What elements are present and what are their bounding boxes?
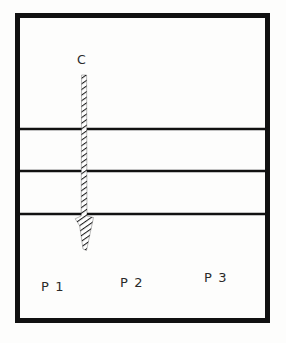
- ply-label-p2: P 2: [120, 276, 144, 289]
- figure-canvas: C P 1 P 2 P 3: [0, 0, 286, 343]
- ply-label-p3: P 3: [204, 271, 228, 284]
- crack-propagation-arrow: [70, 70, 106, 260]
- crack-label: C: [77, 54, 86, 67]
- ply-label-p1: P 1: [41, 280, 65, 293]
